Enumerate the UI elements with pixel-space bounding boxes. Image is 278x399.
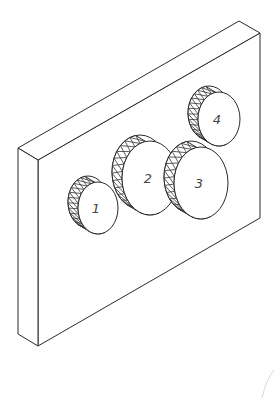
- gear-plate-diagram: 4 2 3 1: [0, 0, 278, 399]
- gear-number-label: 3: [195, 176, 203, 191]
- scan-artifact: [262, 370, 274, 398]
- plate-left-edge: [18, 148, 38, 346]
- gear-number-label: 4: [213, 112, 221, 127]
- gear-number-label: 1: [92, 201, 100, 216]
- gear-number-label: 2: [144, 171, 152, 186]
